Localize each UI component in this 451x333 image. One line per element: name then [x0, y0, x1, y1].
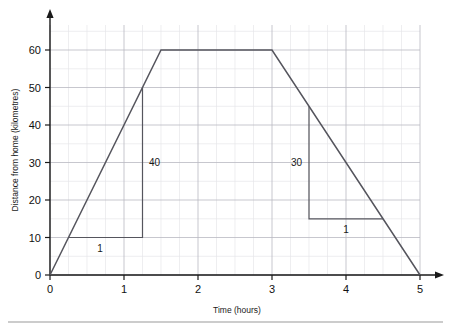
y-tick-label-50: 50	[29, 82, 41, 94]
x-tick-label-3: 3	[269, 283, 275, 295]
y-tick-label-10: 10	[29, 232, 41, 244]
y-tick-label-0: 0	[35, 269, 41, 281]
x-tick-label-2: 2	[195, 283, 201, 295]
gradient-rise-label-return: 30	[291, 157, 303, 168]
x-tick-label-1: 1	[121, 283, 127, 295]
distance-time-graph-figure: 0 10 20 30 40 50 60 0 1 2 3 4 5 40 1	[0, 0, 451, 333]
x-tick-label-4: 4	[343, 283, 349, 295]
x-axis-title: Time (hours)	[213, 305, 261, 315]
x-tick-label-0: 0	[47, 283, 53, 295]
chart-svg: 0 10 20 30 40 50 60 0 1 2 3 4 5 40 1	[0, 0, 451, 333]
gradient-run-label-return: 1	[343, 224, 349, 235]
x-tick-label-5: 5	[417, 283, 423, 295]
y-tick-label-30: 30	[29, 157, 41, 169]
y-tick-label-60: 60	[29, 44, 41, 56]
gradient-rise-label-outbound: 40	[149, 157, 161, 168]
y-tick-label-20: 20	[29, 194, 41, 206]
y-tick-label-40: 40	[29, 119, 41, 131]
gradient-run-label-outbound: 1	[97, 243, 103, 254]
y-axis-title: Distance from home (kilometres)	[10, 88, 20, 211]
